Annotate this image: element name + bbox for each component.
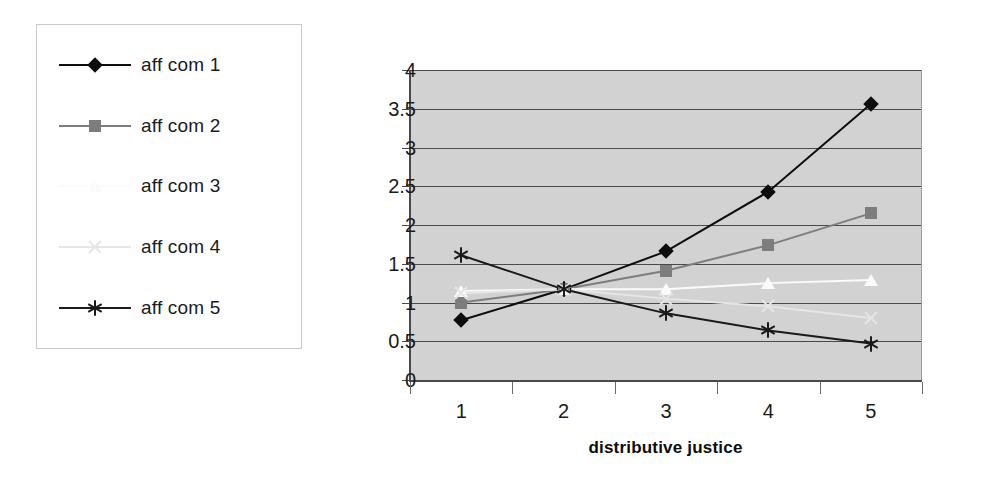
y-tick-label: 4: [356, 59, 416, 82]
legend-item-5[interactable]: aff com 5: [37, 286, 301, 330]
y-tick-label: 2: [356, 214, 416, 237]
y-tick-label: 3: [356, 136, 416, 159]
chart-legend: aff com 1aff com 2aff com 3aff com 4aff …: [36, 24, 302, 349]
series-line-3: [461, 280, 871, 291]
x-tick-label: 5: [841, 400, 901, 423]
y-tick-label: 3.5: [356, 97, 416, 120]
x-tick-mark: [615, 382, 616, 394]
legend-label: aff com 3: [131, 175, 221, 197]
x-tick-mark: [717, 382, 718, 394]
legend-key-triangle: [59, 174, 131, 198]
series-layer: [410, 70, 922, 380]
x-axis-line: [409, 380, 922, 382]
legend-key-star: [59, 296, 131, 320]
legend-label: aff com 1: [131, 54, 221, 76]
series-line-1: [461, 104, 871, 320]
x-tick-label: 2: [534, 400, 594, 423]
legend-item-1[interactable]: aff com 1: [37, 43, 301, 87]
legend-item-list: aff com 1aff com 2aff com 3aff com 4aff …: [37, 25, 301, 348]
y-tick-label: 2.5: [356, 175, 416, 198]
y-tick-label: 1: [356, 291, 416, 314]
legend-key-diamond: [59, 53, 131, 77]
legend-line-swatch: [59, 125, 131, 127]
legend-label: aff com 4: [131, 236, 221, 258]
legend-line-swatch: [59, 64, 131, 66]
x-tick-label: 3: [636, 400, 696, 423]
plot-area: [410, 70, 922, 380]
x-tick-mark: [512, 382, 513, 394]
legend-item-4[interactable]: aff com 4: [37, 225, 301, 269]
legend-key-x: [59, 235, 131, 259]
legend-item-2[interactable]: aff com 2: [37, 104, 301, 148]
legend-label: aff com 5: [131, 297, 221, 319]
y-tick-label: 0: [356, 369, 416, 392]
x-tick-mark: [410, 382, 411, 394]
x-tick-mark: [820, 382, 821, 394]
legend-line-swatch: [59, 246, 131, 248]
legend-line-swatch: [59, 185, 131, 187]
x-axis-title: distributive justice: [409, 438, 922, 458]
legend-line-swatch: [59, 307, 131, 309]
x-tick-label: 4: [738, 400, 798, 423]
y-tick-label: 0.5: [356, 330, 416, 353]
plot-wrapper: 00.511.522.533.54 12345 distributive jus…: [352, 52, 952, 452]
x-tick-label: 1: [431, 400, 491, 423]
x-tick-mark: [922, 382, 923, 394]
chart-figure: aff com 1aff com 2aff com 3aff com 4aff …: [0, 0, 988, 504]
y-tick-label: 1.5: [356, 252, 416, 275]
legend-item-3[interactable]: aff com 3: [37, 164, 301, 208]
legend-label: aff com 2: [131, 115, 221, 137]
legend-key-square: [59, 114, 131, 138]
